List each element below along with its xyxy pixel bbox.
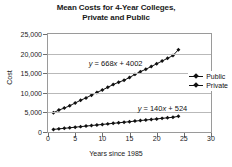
legend-item-public[interactable]: Public bbox=[189, 72, 228, 81]
legend-item-private[interactable]: Private bbox=[189, 81, 228, 90]
data-point-marker bbox=[111, 83, 115, 87]
data-point-marker bbox=[100, 88, 104, 92]
data-point-marker bbox=[128, 120, 132, 124]
data-point-marker bbox=[111, 121, 115, 125]
x-axis-tick-label: 20 bbox=[153, 135, 161, 142]
y-axis-tick-label: 20,000 bbox=[21, 50, 42, 57]
annotation-public-equation: y = 140x + 524 bbox=[138, 104, 188, 113]
data-point-marker bbox=[106, 85, 110, 89]
data-point-marker bbox=[166, 56, 170, 60]
chart-title-line-2: Private and Public bbox=[0, 13, 232, 23]
y-axis-tick-label: 15,000 bbox=[21, 70, 42, 77]
x-axis-tick-labels: 051015202530 bbox=[47, 135, 212, 147]
data-point-marker bbox=[62, 126, 66, 130]
data-point-marker bbox=[106, 122, 110, 126]
x-axis-tick-label: 25 bbox=[180, 135, 188, 142]
data-point-marker bbox=[176, 114, 180, 118]
x-axis-tick-label: 30 bbox=[207, 135, 215, 142]
x-axis-tick-label: 15 bbox=[126, 135, 134, 142]
data-point-marker bbox=[144, 67, 148, 71]
chart-title: Mean Costs for 4-Year Colleges, Private … bbox=[0, 3, 232, 23]
y-axis-tick-labels: 05,00010,00015,00020,00025,000 bbox=[0, 33, 45, 133]
chart-title-line-1: Mean Costs for 4-Year Colleges, bbox=[0, 3, 232, 13]
data-point-marker bbox=[95, 123, 99, 127]
data-point-marker bbox=[149, 117, 153, 121]
data-point-marker bbox=[73, 101, 77, 105]
data-point-marker bbox=[68, 104, 72, 108]
x-axis-title: Years since 1985 bbox=[0, 150, 232, 157]
legend-label: Public bbox=[206, 72, 225, 81]
x-axis-tick-label: 0 bbox=[46, 135, 50, 142]
data-point-marker bbox=[62, 106, 66, 110]
x-axis-tick-label: 5 bbox=[73, 135, 77, 142]
data-point-marker bbox=[128, 76, 132, 80]
data-point-marker bbox=[171, 115, 175, 119]
legend: Public Private bbox=[188, 71, 230, 91]
data-point-marker bbox=[155, 117, 159, 121]
data-point-marker bbox=[144, 118, 148, 122]
data-point-marker bbox=[149, 65, 153, 69]
data-point-marker bbox=[160, 59, 164, 63]
x-axis-tick-label: 10 bbox=[98, 135, 106, 142]
data-point-marker bbox=[73, 125, 77, 129]
data-point-marker bbox=[57, 127, 61, 131]
y-axis-tick-label: 5,000 bbox=[24, 109, 42, 116]
legend-label: Private bbox=[206, 81, 228, 90]
data-point-marker bbox=[122, 78, 126, 82]
gridline bbox=[48, 73, 211, 74]
data-point-marker bbox=[122, 120, 126, 124]
data-point-marker bbox=[79, 98, 83, 102]
legend-marker-icon bbox=[189, 82, 203, 89]
y-axis-tick-label: 10,000 bbox=[21, 89, 42, 96]
data-point-marker bbox=[68, 126, 72, 130]
annotation-private-equation: y = 668x + 4002 bbox=[89, 59, 143, 68]
data-point-marker bbox=[133, 119, 137, 123]
y-axis-tick-label: 25,000 bbox=[21, 31, 42, 38]
data-point-marker bbox=[89, 124, 93, 128]
data-point-marker bbox=[138, 119, 142, 123]
data-point-marker bbox=[160, 116, 164, 120]
data-point-marker bbox=[51, 127, 55, 131]
data-point-marker bbox=[84, 124, 88, 128]
y-axis-tick-label: 0 bbox=[38, 129, 42, 136]
data-point-marker bbox=[100, 122, 104, 126]
data-point-marker bbox=[155, 62, 159, 66]
data-point-marker bbox=[79, 125, 83, 129]
data-point-marker bbox=[117, 121, 121, 125]
gridline bbox=[48, 93, 211, 94]
data-point-marker bbox=[117, 80, 121, 84]
series-line bbox=[53, 116, 178, 129]
data-series-layer bbox=[48, 34, 211, 132]
data-point-marker bbox=[84, 96, 88, 100]
legend-marker-icon bbox=[189, 73, 203, 80]
gridline bbox=[48, 54, 211, 55]
data-point-marker bbox=[166, 116, 170, 120]
chart-container: Mean Costs for 4-Year Colleges, Private … bbox=[0, 0, 232, 167]
